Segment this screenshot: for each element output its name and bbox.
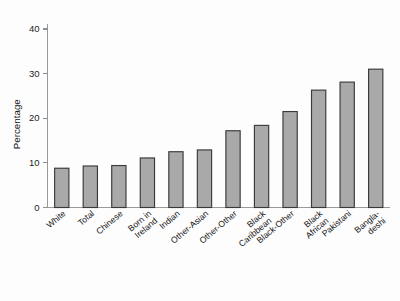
bar xyxy=(197,150,211,208)
y-tick-label: 10 xyxy=(29,157,40,168)
bar xyxy=(226,131,240,208)
chart-canvas: 010203040 WhiteTotalChineseBorn inIrelan… xyxy=(0,0,400,301)
bar-series xyxy=(55,69,383,207)
bar xyxy=(312,90,326,207)
bar xyxy=(283,112,297,208)
category-labels: WhiteTotalChineseBorn inIrelandIndianOth… xyxy=(44,208,387,249)
x-category-label: Born inIreland xyxy=(126,208,159,241)
y-axis-title-text: Percentage xyxy=(11,99,22,150)
x-category-label: Bangla-deshi xyxy=(352,208,387,242)
y-axis: 010203040 xyxy=(29,23,48,213)
bar xyxy=(83,166,97,208)
x-category-label: Chinese xyxy=(94,208,125,236)
x-category-label: Indian xyxy=(157,208,182,231)
bar xyxy=(112,166,126,208)
y-tick-label: 20 xyxy=(29,112,40,123)
x-category-label: Total xyxy=(76,208,96,227)
y-tick-label: 30 xyxy=(29,68,40,79)
bar xyxy=(369,69,383,207)
bar xyxy=(55,168,69,207)
bar xyxy=(254,125,268,207)
bar xyxy=(169,152,183,208)
x-category-label: White xyxy=(44,208,67,230)
y-tick-label: 0 xyxy=(34,202,39,213)
y-axis-title: Percentage xyxy=(11,99,22,150)
bar-chart-figure: 010203040 WhiteTotalChineseBorn inIrelan… xyxy=(0,0,400,301)
bar xyxy=(140,158,154,208)
bar xyxy=(340,82,354,207)
y-tick-label: 40 xyxy=(29,23,40,34)
